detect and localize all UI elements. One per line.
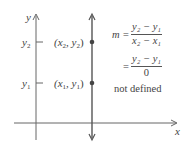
point-2-label: (x2, y2) [54, 37, 84, 50]
slope-fraction-1: y₂ − y₁ x₂ − x₁ [131, 22, 162, 46]
y-axis-label: y [26, 12, 31, 23]
y1-tick-label: y1 [22, 78, 30, 91]
slope-lhs: m = [112, 30, 129, 41]
y2-tick-label: y2 [22, 37, 30, 50]
fraction-2-numerator: y₂ − y₁ [131, 54, 162, 67]
fraction-1-denominator: x₂ − x₁ [132, 35, 161, 47]
fraction-1-numerator: y₂ − y₁ [131, 22, 162, 35]
x-axis-label: x [175, 126, 180, 137]
slope-fraction-2: y₂ − y₁ 0 [131, 54, 162, 78]
point-1-label: (x1, y1) [54, 78, 84, 91]
equals-sign: = [123, 62, 129, 73]
not-defined-text: not defined [114, 84, 162, 95]
fraction-2-denominator: 0 [144, 67, 149, 79]
point-2 [90, 40, 95, 45]
point-1 [90, 81, 95, 86]
